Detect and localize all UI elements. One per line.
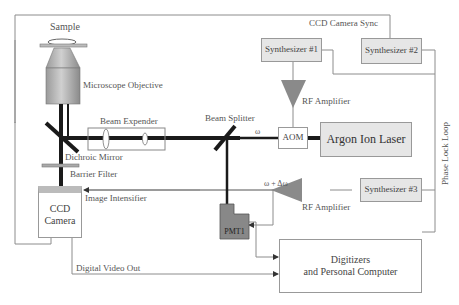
pmt-box: PMT1 [220, 225, 249, 239]
aom-label: AOM [282, 132, 303, 143]
synthesizer-3-label: Synthesizer #3 [364, 184, 417, 195]
pmt-label: PMT1 [224, 227, 244, 237]
pmt-out-line [249, 222, 278, 257]
image-intensifier-label: Image Intensifier [85, 194, 147, 203]
aom-box: AOM [278, 127, 308, 149]
microscope-objective-label: Microscope Objective [83, 81, 163, 90]
dichroic-mirror-label: Dichroic Mirror [65, 153, 123, 162]
synthesizer-2-label: Synthesizer #2 [365, 45, 418, 56]
digitizers-box: Digitizers and Personal Computer [279, 239, 422, 293]
argon-laser-box: Argon Ion Laser [320, 122, 412, 157]
synthesizer-1-label: Synthesizer #1 [265, 44, 318, 55]
microscope-objective-icon [46, 68, 80, 104]
synthesizer-1-box: Synthesizer #1 [261, 38, 322, 62]
rf-amplifier-top-label: RF Amplifier [302, 97, 350, 106]
ccd-camera-label-1: CCD [50, 203, 71, 216]
barrier-filter-label: Barrier Filter [70, 170, 117, 179]
lens-1-icon [103, 129, 109, 149]
synthesizer-3-box: Synthesizer #3 [360, 178, 422, 202]
beam-splitter-label: Beam Splitter [205, 114, 255, 123]
ccd-camera-box: CCD Camera [38, 186, 82, 238]
lens-2-icon [143, 133, 148, 145]
barrier-filter-icon [42, 164, 79, 167]
argon-laser-label: Argon Ion Laser [326, 132, 405, 147]
objective-top [46, 48, 80, 68]
ccd-camera-sync-label: CCD Camera Sync [309, 19, 378, 28]
omega-label: ω [255, 128, 260, 136]
sample-stage [40, 44, 87, 47]
omega-plus-delta-label: ω + Δω [264, 180, 288, 188]
synthesizer-2-box: Synthesizer #2 [361, 38, 422, 64]
pmt-ref-line [249, 190, 273, 225]
digitizers-label-2: and Personal Computer [304, 266, 398, 279]
rf-amplifier-bottom-label: RF Amplifier [302, 203, 350, 212]
sample-label: Sample [50, 22, 80, 32]
beam-expender-label: Beam Expender [100, 117, 158, 126]
phase-lock-line [422, 50, 435, 232]
digitizers-label-1: Digitizers [331, 254, 370, 267]
digital-video-out-label: Digital Video Out [76, 264, 140, 273]
phase-lock-loop-label: Phase Lock Loop [440, 122, 450, 185]
ccd-camera-label-2: Camera [44, 215, 75, 228]
